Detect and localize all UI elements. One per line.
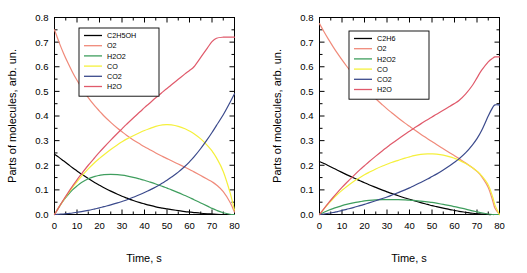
curve-co2 — [320, 105, 500, 215]
y-tick-label: 0.0 — [35, 209, 48, 220]
y-tick-label: 0.2 — [35, 160, 48, 171]
x-tick-label: 30 — [382, 220, 393, 231]
x-tick-label: 70 — [472, 220, 483, 231]
x-tick-label: 60 — [449, 220, 460, 231]
legend-label-co2: CO2 — [377, 75, 392, 84]
y-tick-label: 0.4 — [300, 110, 313, 121]
plot-svg-right: 0.00.10.20.30.40.50.60.70.8 010203040506… — [263, 0, 527, 273]
chart-panel-left: 0.00.10.20.30.40.50.60.70.8 010203040506… — [0, 0, 263, 273]
curve-co — [55, 125, 235, 215]
chart-panel-right: 0.00.10.20.30.40.50.60.70.8 010203040506… — [263, 0, 526, 273]
y-tick-label: 0.6 — [35, 61, 48, 72]
y-tick-label: 0.5 — [300, 86, 313, 97]
x-axis-title-right: Time, s — [391, 252, 427, 264]
y-axis-title-left: Parts of molecules, arb. un. — [6, 49, 18, 183]
x-tick-label: 0 — [317, 220, 322, 231]
y-tick-label: 0.0 — [300, 209, 313, 220]
curve-co — [320, 154, 500, 215]
legend-right: C2H6O2H2O2COCO2H2O — [349, 31, 429, 99]
y-tick-label: 0.3 — [300, 135, 313, 146]
x-tick-label: 50 — [427, 220, 438, 231]
x-tick-label: 40 — [139, 220, 150, 231]
y-tick-label: 0.3 — [35, 135, 48, 146]
y-tick-label: 0.7 — [35, 37, 48, 48]
y-tick-label: 0.5 — [35, 86, 48, 97]
y-tick-label: 0.8 — [35, 12, 48, 23]
x-axis-title-left: Time, s — [126, 252, 162, 264]
curve-co2 — [55, 94, 235, 215]
legend-left: C2H5OHO2H2O2COCO2H2O — [79, 28, 159, 96]
y-tick-label: 0.4 — [35, 110, 48, 121]
legend-label-o2: O2 — [377, 44, 387, 53]
legend-label-h2o2: H2O2 — [377, 55, 396, 64]
y-axis-ticklabels-left: 0.00.10.20.30.40.50.60.70.8 — [35, 12, 48, 220]
legend-label-c2h5oh: C2H5OH — [107, 31, 136, 40]
x-axis-ticklabels-left: 01020304050607080 — [52, 220, 240, 231]
y-tick-label: 0.6 — [300, 61, 313, 72]
x-tick-label: 0 — [52, 220, 57, 231]
x-tick-label: 80 — [229, 220, 240, 231]
x-tick-label: 10 — [337, 220, 348, 231]
figure-container: 0.00.10.20.30.40.50.60.70.8 010203040506… — [0, 0, 527, 273]
y-tick-label: 0.1 — [35, 184, 48, 195]
legend-label-h2o: H2O — [377, 85, 392, 94]
x-tick-label: 60 — [184, 220, 195, 231]
y-axis-ticklabels-right: 0.00.10.20.30.40.50.60.70.8 — [300, 12, 313, 220]
x-tick-label: 10 — [72, 220, 83, 231]
legend-label-co2: CO2 — [107, 72, 122, 81]
legend-label-o2: O2 — [107, 41, 117, 50]
legend-label-co: CO — [377, 65, 388, 74]
legend-label-h2o: H2O — [107, 82, 122, 91]
x-tick-label: 40 — [404, 220, 415, 231]
legend-label-c2h6: C2H6 — [377, 34, 395, 43]
y-axis-title-right: Parts of molecules, arb. un. — [271, 49, 283, 183]
x-axis-ticklabels-right: 01020304050607080 — [317, 220, 505, 231]
y-tick-label: 0.1 — [300, 184, 313, 195]
y-tick-label: 0.7 — [300, 37, 313, 48]
x-tick-label: 80 — [494, 220, 505, 231]
plot-svg-left: 0.00.10.20.30.40.50.60.70.8 010203040506… — [0, 0, 263, 273]
x-tick-label: 20 — [359, 220, 370, 231]
y-tick-label: 0.2 — [300, 160, 313, 171]
x-tick-label: 70 — [207, 220, 218, 231]
legend-label-co: CO — [107, 62, 118, 71]
x-tick-label: 20 — [94, 220, 105, 231]
legend-label-h2o2: H2O2 — [107, 52, 126, 61]
curve-h2o2 — [55, 174, 235, 214]
x-tick-label: 50 — [162, 220, 173, 231]
x-tick-label: 30 — [117, 220, 128, 231]
y-tick-label: 0.8 — [300, 12, 313, 23]
